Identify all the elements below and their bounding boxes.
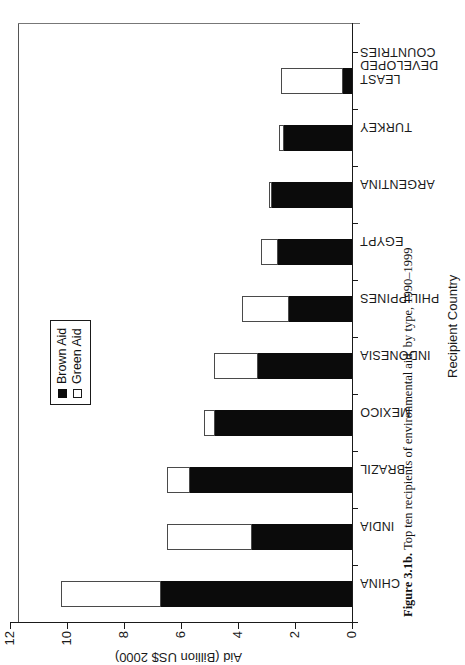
bar-segment-green-aid	[167, 525, 253, 551]
bar-segment-brown-aid	[284, 126, 352, 152]
figure-caption-label: Figure 3.1b.	[401, 553, 415, 617]
chart-legend: Brown Aid Green Aid	[50, 320, 91, 405]
legend-label-green-aid: Green Aid	[70, 328, 85, 384]
bar-least-developed-countries	[281, 69, 352, 95]
bar-segment-brown-aid	[272, 183, 352, 209]
bar-segment-brown-aid	[161, 582, 352, 608]
bar-segment-green-aid	[242, 297, 289, 323]
figure-caption-text: Top ten recipients of environmental aid,…	[401, 248, 415, 551]
chart-rotation-wrapper: 0 2 4 6 8 10 12	[0, 0, 390, 631]
bar-segment-brown-aid	[278, 240, 352, 266]
bar-segment-green-aid	[204, 411, 215, 437]
legend-item-brown-aid: Brown Aid	[55, 328, 70, 398]
bar-chart: 0 2 4 6 8 10 12	[2, 8, 387, 623]
bar-segment-brown-aid	[190, 468, 352, 494]
bar-segment-brown-aid	[289, 297, 352, 323]
filled-square-icon	[58, 389, 67, 398]
plot-frame-top	[18, 23, 19, 623]
category-label-egypt: EGYPT	[360, 234, 465, 248]
bar-segment-green-aid	[281, 69, 344, 95]
bar-segment-green-aid	[167, 468, 190, 494]
category-axis-title: Recipient Country	[445, 275, 460, 378]
value-tick-label-2: 2	[288, 631, 301, 657]
bar-argentina	[269, 183, 352, 209]
legend-label-brown-aid: Brown Aid	[55, 328, 70, 384]
bar-brazil	[167, 468, 352, 494]
category-label-argentina: ARGENTINA	[360, 177, 465, 191]
bar-egypt	[261, 240, 352, 266]
bar-turkey	[279, 126, 352, 152]
category-label-turkey: TURKEY	[360, 120, 465, 134]
bar-mexico	[204, 411, 352, 437]
bar-indonesia	[214, 354, 352, 380]
bar-segment-brown-aid	[343, 69, 352, 95]
value-tick-label-12: 12	[3, 631, 16, 657]
bar-segment-green-aid	[61, 582, 161, 608]
plot-frame-right	[18, 23, 360, 24]
value-axis-title: Aid (Billion US$ 2000)	[115, 650, 242, 665]
figure-caption: Figure 3.1b. Top ten recipients of envir…	[401, 248, 416, 617]
value-tick-label-10: 10	[60, 631, 73, 657]
bar-segment-brown-aid	[258, 354, 352, 380]
bar-segment-green-aid	[214, 354, 258, 380]
bar-segment-green-aid	[261, 240, 278, 266]
category-label-line-1: LEAST DEVELOPED	[360, 59, 465, 86]
legend-item-green-aid: Green Aid	[70, 328, 85, 398]
category-label-line-2: COUNTRIES	[360, 45, 465, 59]
value-tick-label-0: 0	[345, 631, 358, 657]
rotated-plot: 0 2 4 6 8 10 12	[2, 8, 387, 623]
bar-segment-brown-aid	[215, 411, 352, 437]
category-label-least-developed-countries: LEAST DEVELOPEDCOUNTRIES	[360, 45, 465, 86]
bar-segment-brown-aid	[252, 525, 352, 551]
bar-philippines	[242, 297, 352, 323]
bar-china	[61, 582, 352, 608]
bar-india	[167, 525, 352, 551]
category-axis-line	[352, 23, 353, 623]
open-square-icon	[73, 389, 82, 398]
